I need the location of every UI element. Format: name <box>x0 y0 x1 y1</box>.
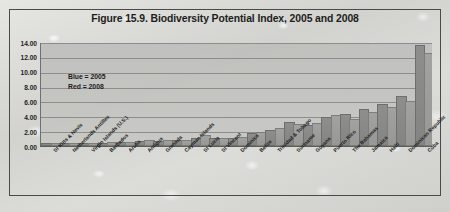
bar-group <box>246 43 265 146</box>
legend-item-2005: Blue = 2005 <box>68 72 106 82</box>
x-axis-tick-label: Dominica <box>239 149 243 153</box>
figure-container: Figure 15.9. Biodiversity Potential Inde… <box>0 0 450 212</box>
x-axis-tick-label: St Kitts & Nevis <box>52 149 56 153</box>
y-axis: 14.0012.0010.008.006.004.002.000.00 <box>0 43 37 147</box>
x-axis-tick-label: Cayman Islands <box>183 149 187 153</box>
bar-group <box>172 43 191 146</box>
bar-group <box>41 43 60 146</box>
x-axis-tick-label: Puerto Rico <box>332 149 336 153</box>
x-axis-tick-label: Jamaica <box>370 149 374 153</box>
x-axis-tick-label: Guyana <box>314 149 318 153</box>
bar-group <box>321 43 340 146</box>
x-axis-tick-label: Trinidad & Tobago <box>276 149 280 153</box>
x-axis-tick-label: Grenada <box>164 149 168 153</box>
chart-legend: Blue = 2005 Red = 2008 <box>68 72 106 92</box>
y-axis-tick-label: 4.00 <box>3 114 37 121</box>
bar-group <box>153 43 172 146</box>
x-axis-tick-label: Virgin Islands (U.S.) <box>90 149 94 153</box>
x-axis-tick-label: St Vincent <box>220 149 224 153</box>
bar-group <box>134 43 153 146</box>
y-axis-tick-label: 14.00 <box>3 40 37 47</box>
bar-group <box>116 43 135 146</box>
x-axis-tick-label: Barbados <box>108 149 112 153</box>
x-axis-tick-label: Suriname <box>295 149 299 153</box>
x-axis-tick-label: St Lucia <box>202 149 206 153</box>
x-axis-tick-label: The Bahamas <box>351 149 355 153</box>
bar-group <box>209 43 228 146</box>
bar-group <box>377 43 396 146</box>
x-axis-tick-label: Antigua <box>146 149 150 153</box>
bar-group <box>265 43 284 146</box>
y-axis-tick-label: 0.00 <box>3 144 37 151</box>
x-axis-tick-label: Netherlands Antilles <box>71 149 75 153</box>
y-axis-tick-label: 2.00 <box>3 129 37 136</box>
chart-title: Figure 15.9. Biodiversity Potential Inde… <box>16 13 434 24</box>
bar-group <box>302 43 321 146</box>
y-axis-tick-label: 6.00 <box>3 99 37 106</box>
x-axis-tick-label: Cuba <box>426 149 430 153</box>
y-axis-tick-label: 8.00 <box>3 84 37 91</box>
x-axis: St Kitts & NevisNetherlands AntillesVirg… <box>40 147 432 199</box>
x-axis-tick-label: Dominican Republic <box>407 149 411 153</box>
legend-item-2008: Red = 2008 <box>68 82 106 92</box>
x-axis-tick-label: Aruba <box>127 149 131 153</box>
bar-group <box>396 43 415 146</box>
y-axis-tick-label: 12.00 <box>3 54 37 61</box>
x-axis-tick-label: Haiti <box>388 149 392 153</box>
x-axis-tick-label: Belize <box>258 149 262 153</box>
y-axis-tick-label: 10.00 <box>3 69 37 76</box>
